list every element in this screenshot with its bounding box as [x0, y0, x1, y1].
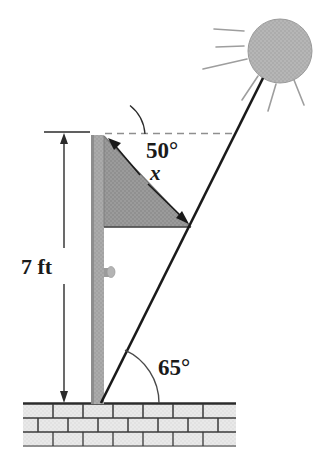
cleat-knob-icon: [104, 267, 115, 278]
arrow-down-icon: [60, 391, 68, 403]
angle-arc-50: [130, 106, 145, 135]
label-angle-65: 65°: [158, 355, 190, 380]
label-unknown-x: x: [149, 161, 161, 185]
angle-marker-65: [125, 350, 159, 403]
sun-disc: [248, 19, 312, 83]
angle-arc-65: [125, 350, 159, 403]
sun-icon: [203, 19, 312, 111]
label-angle-50: 50°: [146, 138, 178, 163]
arrow-up-icon: [60, 133, 68, 144]
flagpole-shadow-edge: [91, 135, 94, 404]
flagpole-shadow-diagram: 50° x 65° 7 ft: [0, 0, 328, 458]
ground-brick-wall: [23, 404, 236, 448]
brick-wall-body: [23, 404, 236, 447]
diagram-root: 50° x 65° 7 ft: [0, 0, 328, 458]
label-pole-height: 7 ft: [21, 254, 53, 279]
